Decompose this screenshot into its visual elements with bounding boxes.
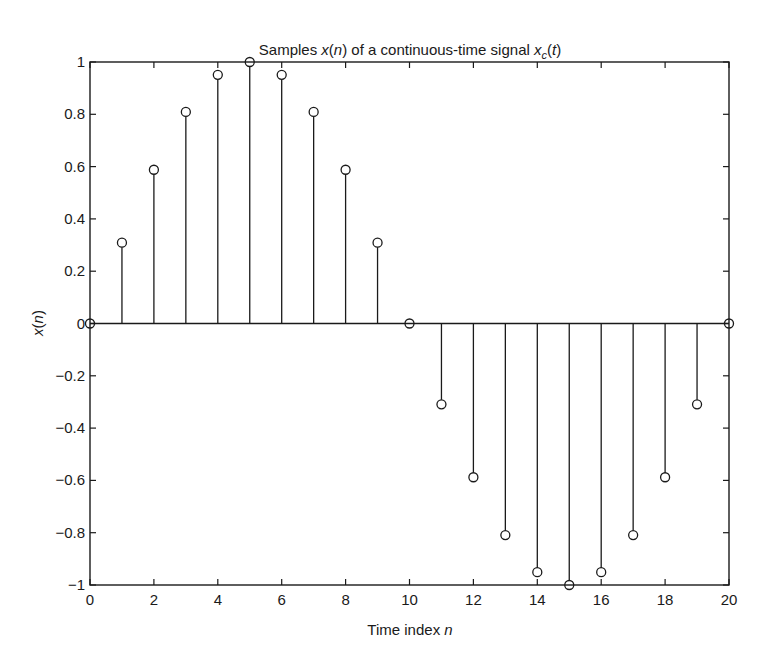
x-tick-label: 12 bbox=[465, 591, 482, 608]
title-var-n: n bbox=[334, 41, 342, 58]
y-tick-label: 0.8 bbox=[64, 105, 85, 122]
stem-marker-circle bbox=[597, 568, 606, 577]
stem-point bbox=[693, 324, 702, 409]
y-axis-label-n: n bbox=[29, 315, 46, 323]
stem-marker-circle bbox=[213, 70, 222, 79]
stem-point bbox=[437, 324, 446, 409]
y-tick-label: −1 bbox=[68, 576, 85, 593]
x-tick-label: 16 bbox=[593, 591, 610, 608]
x-tick-label: 6 bbox=[278, 591, 286, 608]
x-tick-label: 8 bbox=[341, 591, 349, 608]
stem-marker-circle bbox=[181, 107, 190, 116]
y-axis-label-paren-close: ) bbox=[29, 310, 46, 315]
stem-marker-circle bbox=[341, 165, 350, 174]
stem-point bbox=[341, 165, 350, 323]
x-tick-label: 20 bbox=[721, 591, 738, 608]
stem-marker-circle bbox=[117, 238, 126, 247]
stem-marker-circle bbox=[629, 531, 638, 540]
stem-point bbox=[309, 107, 318, 323]
title-prefix: Samples bbox=[259, 41, 322, 58]
y-tick-label: −0.6 bbox=[55, 471, 85, 488]
x-axis-label-var: n bbox=[444, 621, 452, 638]
stem-point bbox=[373, 238, 382, 323]
x-tick-label: 2 bbox=[150, 591, 158, 608]
x-axis-ticks: 02468101214161820 bbox=[86, 62, 738, 608]
stem-marker-circle bbox=[533, 568, 542, 577]
x-axis-label: Time index n bbox=[367, 621, 452, 638]
stem-marker-circle bbox=[437, 400, 446, 409]
stem-point bbox=[469, 324, 478, 482]
stem-point bbox=[533, 324, 542, 577]
y-axis-label: x(n) bbox=[29, 310, 46, 337]
stem-point bbox=[597, 324, 606, 577]
y-tick-label: −0.4 bbox=[55, 419, 85, 436]
stem-marker-circle bbox=[693, 400, 702, 409]
title-middle: of a continuous-time signal bbox=[347, 41, 534, 58]
x-tick-label: 10 bbox=[401, 591, 418, 608]
stem-point bbox=[245, 58, 254, 324]
stem-marker-circle bbox=[469, 473, 478, 482]
chart-title: Samples x(n) of a continuous-time signal… bbox=[259, 41, 561, 61]
y-tick-label: 0 bbox=[77, 315, 85, 332]
stem-marker-circle bbox=[149, 165, 158, 174]
stem-marker-circle bbox=[661, 473, 670, 482]
y-tick-label: −0.8 bbox=[55, 524, 85, 541]
stem-point bbox=[181, 107, 190, 323]
stem-point bbox=[277, 70, 286, 323]
y-tick-label: 0.2 bbox=[64, 262, 85, 279]
x-tick-label: 0 bbox=[86, 591, 94, 608]
stem-point bbox=[117, 238, 126, 323]
stem-marker-circle bbox=[309, 107, 318, 116]
y-tick-label: −0.2 bbox=[55, 367, 85, 384]
stem-marker-circle bbox=[373, 238, 382, 247]
title-paren-close-2: ) bbox=[556, 41, 561, 58]
stem-marker-circle bbox=[277, 70, 286, 79]
stem-point bbox=[565, 324, 574, 590]
x-tick-label: 14 bbox=[529, 591, 546, 608]
stem-plot-figure: Samples x(n) of a continuous-time signal… bbox=[0, 0, 774, 662]
stem-point bbox=[501, 324, 510, 540]
stem-point bbox=[149, 165, 158, 323]
stem-point bbox=[629, 324, 638, 540]
x-tick-label: 18 bbox=[657, 591, 674, 608]
x-tick-label: 4 bbox=[214, 591, 222, 608]
stem-point bbox=[213, 70, 222, 323]
plot-canvas: Samples x(n) of a continuous-time signal… bbox=[0, 0, 774, 662]
stem-point bbox=[661, 324, 670, 482]
y-tick-label: 0.4 bbox=[64, 210, 85, 227]
y-tick-label: 1 bbox=[77, 53, 85, 70]
x-axis-label-text: Time index bbox=[367, 621, 444, 638]
stem-marker-circle bbox=[501, 531, 510, 540]
y-tick-label: 0.6 bbox=[64, 158, 85, 175]
